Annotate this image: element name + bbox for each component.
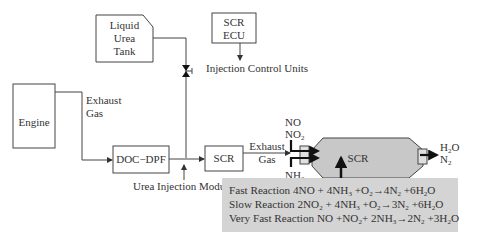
reaction-slow: Slow Reaction 2NO2 + 4NH3 +O2→3N2 +6H2O [229,198,443,211]
no2-label: NO2 [285,128,304,141]
inlet-flange [300,146,309,164]
no2-sub: 2 [301,134,305,142]
scr-small-label: SCR [205,152,243,165]
urea-feed-line [153,38,186,158]
scr-catalyst-label: SCR [330,152,386,165]
reaction-very-fast: Very Fast Reaction NO +NO2+ 2NH3→2N2 +3H… [229,212,459,225]
n2-label: N2 [440,153,451,166]
scr-ecu-line2: ECU [212,29,256,42]
urea-injection-module-label: Urea Injection Module [133,180,233,193]
doc-dpf-label: DOC−DPF [113,153,169,166]
scr-ecu-label: SCR ECU [212,16,256,42]
exhaust-gas-label-1: Exhaust Gas [86,94,121,120]
exhaust-gas-1-line2: Gas [86,107,121,120]
n2-sub: 2 [448,159,452,167]
scr-ecu-line1: SCR [212,16,256,29]
injection-control-units-label: Injection Control Units [206,62,308,75]
reaction-fast: Fast Reaction 4NO + 4NH3 +O2→4N2 +6H2O [229,184,435,197]
exhaust-gas-2-line2: Gas [243,153,291,166]
no2-base: NO [285,128,301,140]
reaction-very-fast-name: Very Fast Reaction [229,212,314,224]
urea-tank-line3: Tank [96,45,153,58]
n2-base: N [440,153,448,165]
urea-tank-label: Liquid Urea Tank [96,19,153,58]
reaction-fast-name: Fast Reaction [229,184,290,196]
urea-tank-line2: Urea [96,32,153,45]
exhaust-gas-1-line1: Exhaust [86,94,121,107]
exhaust-gas-2-line1: Exhaust [243,140,291,153]
exhaust-gas-label-2: Exhaust Gas [243,140,291,166]
outlet-flange [418,149,427,164]
urea-tank-line1: Liquid [96,19,153,32]
reaction-slow-name: Slow Reaction [229,198,295,210]
h2o-h: H [440,141,448,153]
h2o-o: O [451,141,459,153]
engine-label: Engine [13,116,55,129]
valve-icon [182,65,192,77]
